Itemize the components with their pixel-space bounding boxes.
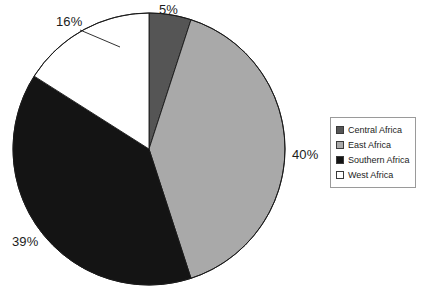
slice-label-west-africa: 16% [56,14,82,29]
chart-legend: Central AfricaEast AfricaSouthern Africa… [330,117,416,188]
legend-item-label: Central Africa [348,125,402,135]
legend-item-central-africa[interactable]: Central Africa [336,122,411,137]
legend-item-southern-africa[interactable]: Southern Africa [336,152,411,167]
legend-swatch-icon [336,171,344,179]
legend-item-label: Southern Africa [348,155,410,165]
pie-slice-group [13,13,285,285]
legend-item-east-africa[interactable]: East Africa [336,137,411,152]
legend-item-label: East Africa [348,140,391,150]
legend-swatch-icon [336,156,344,164]
legend-swatch-icon [336,126,344,134]
legend-swatch-icon [336,141,344,149]
pie-chart: 5% 40% 39% 16% Central AfricaEast Africa… [0,0,424,293]
slice-label-southern-africa: 39% [12,234,38,249]
slice-label-central-africa: 5% [159,2,178,17]
legend-item-label: West Africa [348,170,393,180]
legend-item-west-africa[interactable]: West Africa [336,167,411,182]
slice-label-east-africa: 40% [292,147,318,162]
